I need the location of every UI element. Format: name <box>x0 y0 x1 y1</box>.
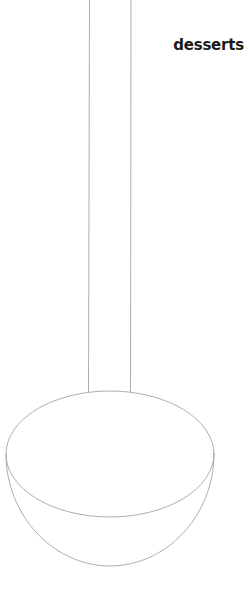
ladle-handle <box>89 0 132 392</box>
bowl-rim-ellipse <box>6 391 214 517</box>
handle-left-line <box>89 0 90 392</box>
ladle-drawing <box>6 0 214 566</box>
handle-right-line <box>131 0 132 392</box>
ladle-illustration <box>0 0 249 612</box>
bowl-body-arc <box>6 454 214 566</box>
page-title: desserts <box>173 38 244 53</box>
page-canvas: desserts <box>0 0 249 612</box>
